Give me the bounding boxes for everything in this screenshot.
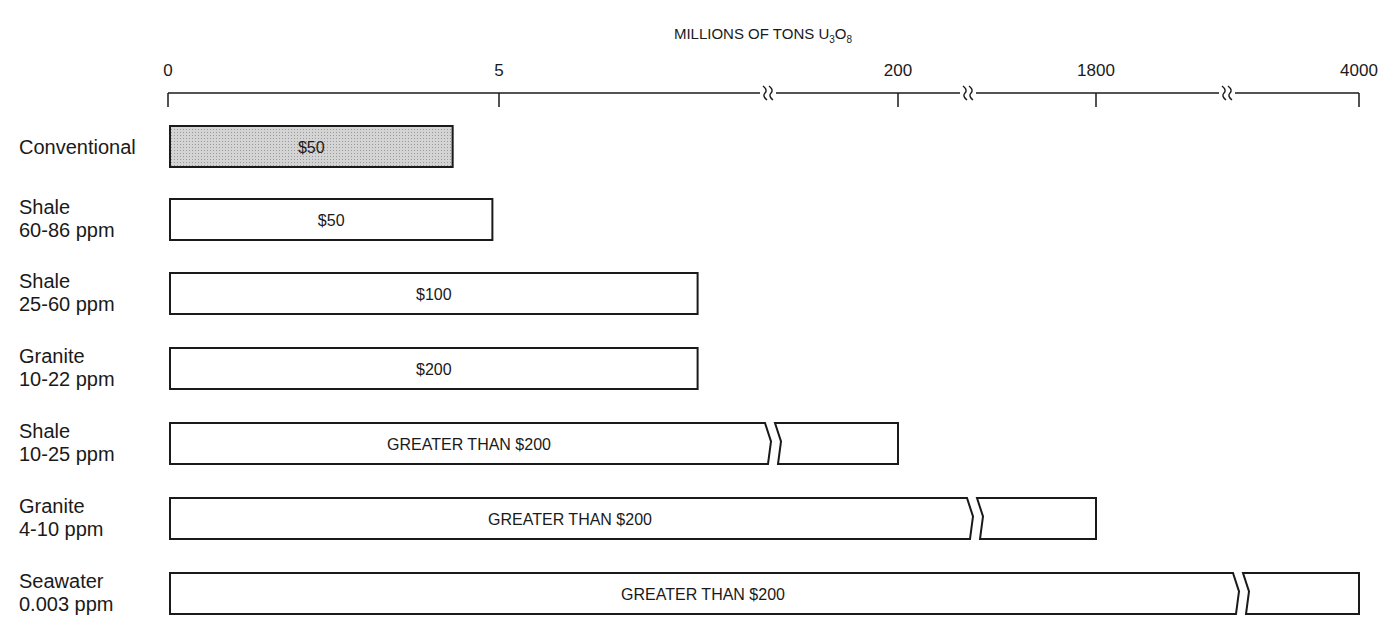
category-detail: 10-22 ppm [19, 368, 115, 390]
axis-break-icon [1222, 86, 1232, 100]
bar-value-label: GREATER THAN $200 [488, 511, 652, 528]
category-label: Shale25-60 ppm [19, 270, 115, 315]
axis-break-icon [763, 86, 773, 100]
bar-value-label: $50 [298, 139, 325, 156]
bar: GREATER THAN $200 [170, 498, 1096, 539]
category-name: Seawater [19, 570, 104, 592]
bar-value-label: $100 [416, 286, 452, 303]
category-detail: 10-25 ppm [19, 443, 115, 465]
category-name: Shale [19, 196, 70, 218]
category-name: Conventional [19, 136, 136, 158]
bars: $50$50$100$200GREATER THAN $200GREATER T… [170, 126, 1359, 614]
bar-value-label: $200 [416, 361, 452, 378]
category-label: Conventional [19, 136, 136, 158]
bar-value-label: $50 [318, 212, 345, 229]
category-detail: 25-60 ppm [19, 293, 115, 315]
axis-title: MILLIONS OF TONS U3O8 [674, 25, 853, 45]
bar: $200 [170, 348, 698, 389]
uranium-resources-chart: 0520018004000MILLIONS OF TONS U3O8 $50$5… [0, 0, 1393, 641]
category-name: Shale [19, 420, 70, 442]
x-tick-label: 5 [494, 61, 503, 80]
x-tick-label: 1800 [1077, 61, 1115, 80]
category-name: Shale [19, 270, 70, 292]
bar-value-label: GREATER THAN $200 [621, 586, 785, 603]
bar: $50 [170, 126, 453, 167]
axis-break-icon [963, 86, 973, 100]
bar-value-label: GREATER THAN $200 [387, 436, 551, 453]
bar: $100 [170, 273, 698, 314]
category-label: Granite4-10 ppm [19, 495, 104, 540]
category-label: Shale60-86 ppm [19, 196, 115, 241]
bar: GREATER THAN $200 [170, 573, 1359, 614]
category-detail: 0.003 ppm [19, 593, 114, 615]
category-name: Granite [19, 495, 85, 517]
category-detail: 4-10 ppm [19, 518, 104, 540]
x-tick-label: 4000 [1340, 61, 1378, 80]
x-axis: 0520018004000MILLIONS OF TONS U3O8 [163, 25, 1378, 107]
bar-segment-right [977, 498, 1096, 539]
x-tick-label: 200 [884, 61, 912, 80]
category-detail: 60-86 ppm [19, 219, 115, 241]
category-labels: ConventionalShale60-86 ppmShale25-60 ppm… [19, 136, 136, 615]
category-label: Seawater0.003 ppm [19, 570, 114, 615]
x-tick-label: 0 [163, 61, 172, 80]
bar-segment-right [775, 423, 898, 464]
category-label: Granite10-22 ppm [19, 345, 115, 390]
bar-segment-right [1243, 573, 1359, 614]
category-name: Granite [19, 345, 85, 367]
category-label: Shale10-25 ppm [19, 420, 115, 465]
bar: GREATER THAN $200 [170, 423, 898, 464]
bar: $50 [170, 199, 492, 240]
